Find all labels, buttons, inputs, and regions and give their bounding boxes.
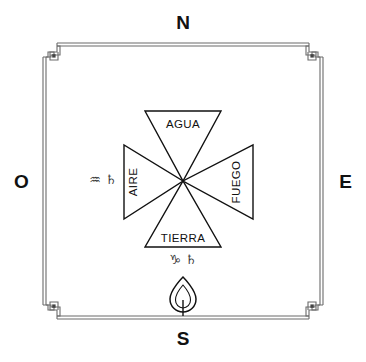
element-cross-svg: AGUA FUEGO TIERRA AIRE ♒ ♄ ♑ ♄ [0,0,366,362]
element-label-aire: AIRE [127,168,139,196]
sigil-capricorn-saturn: ♑ ♄ [169,252,196,267]
element-label-fuego: FUEGO [230,161,242,204]
element-label-agua: AGUA [166,118,200,130]
sigil-aquarius-saturn: ♒ ♄ [89,172,116,187]
element-triangle-aire: AIRE [124,145,183,219]
diagram-canvas: N S O E [0,0,366,362]
flame-icon [170,277,196,316]
element-triangle-agua: AGUA [145,111,221,181]
element-label-tierra: TIERRA [161,232,206,244]
element-cross: AGUA FUEGO TIERRA AIRE ♒ ♄ ♑ ♄ [0,0,366,362]
element-triangle-tierra: TIERRA [145,181,221,247]
element-triangle-fuego: FUEGO [183,145,253,219]
